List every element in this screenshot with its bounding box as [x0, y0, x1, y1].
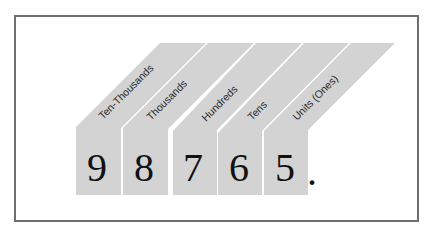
place-digit: 6 [229, 145, 249, 190]
decimal-point: . [307, 149, 317, 194]
place-value-diagram: Ten-Thousands 9 Thousands 8 Hundreds 7 T… [0, 0, 427, 235]
place-digit: 7 [183, 145, 203, 190]
place-digit: 5 [275, 145, 295, 190]
place-digit: 9 [87, 145, 107, 190]
place-digit: 8 [134, 145, 154, 190]
